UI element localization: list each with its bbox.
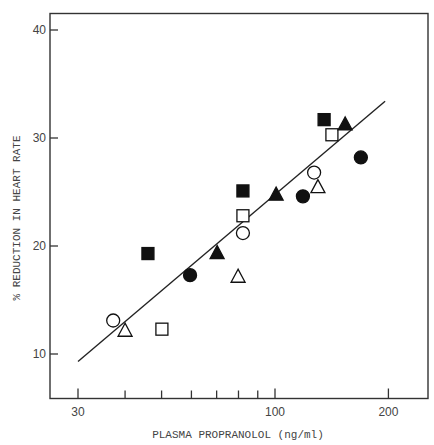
- open-square-marker: [326, 129, 338, 141]
- x-tick-label: 100: [265, 405, 285, 419]
- y-tick-label: 20: [33, 239, 47, 253]
- plot-frame: [50, 14, 428, 399]
- regression-line: [78, 101, 385, 361]
- filled-circle-marker: [354, 151, 367, 164]
- scatter-chart: 10203040 30100200 PLASMA PROPRANOLOL (ng…: [0, 0, 434, 445]
- y-axis-ticks: 10203040: [33, 23, 58, 361]
- x-axis-ticks: 30100200: [71, 389, 398, 420]
- filled-triangle-marker: [338, 117, 352, 130]
- y-tick-label: 10: [33, 347, 47, 361]
- open-circle-marker: [107, 314, 120, 327]
- x-tick-label: 30: [71, 405, 85, 419]
- filled-square-marker: [237, 185, 249, 197]
- x-tick-label: 200: [378, 405, 398, 419]
- filled-circle-marker: [296, 190, 309, 203]
- open-circle-marker: [308, 166, 321, 179]
- y-tick-label: 30: [33, 131, 47, 145]
- filled-square-marker: [142, 248, 154, 260]
- y-axis-title: % REDUCTION IN HEART RATE: [11, 135, 23, 300]
- filled-circle-marker: [184, 269, 197, 282]
- open-triangle-marker: [311, 180, 325, 193]
- data-points: [107, 114, 368, 337]
- open-triangle-marker: [231, 269, 245, 282]
- filled-square-marker: [318, 114, 330, 126]
- open-circle-marker: [236, 227, 249, 240]
- x-axis-title: PLASMA PROPRANOLOL (ng/ml): [152, 429, 324, 441]
- open-square-marker: [156, 323, 168, 335]
- open-square-marker: [237, 210, 249, 222]
- y-tick-label: 40: [33, 23, 47, 37]
